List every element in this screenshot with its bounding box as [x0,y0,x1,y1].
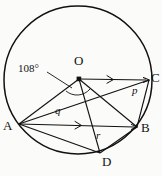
segment-O-B [79,79,137,127]
point-label-D: D [102,155,111,168]
segment-A-D [19,124,100,153]
point-label-O: O [74,54,83,67]
vector-A-to-B [19,124,134,127]
vector-label-p: p [132,85,138,96]
point-label-C: C [151,71,160,84]
point-label-B: B [141,121,150,134]
point-label-A: A [3,119,12,132]
segment-D-B [100,127,137,153]
segment-A-C [19,80,149,124]
vector-label-r: r [96,130,100,141]
vector-label-q: q [55,105,61,116]
geometry-figure: O C A B D p q r 108° [0,0,162,176]
angle-leader-line [47,72,72,88]
center-point-marker-O [77,77,82,82]
angle-arc-at-O [66,89,90,95]
segment-O-A [19,79,79,124]
angle-label-108: 108° [18,63,39,74]
